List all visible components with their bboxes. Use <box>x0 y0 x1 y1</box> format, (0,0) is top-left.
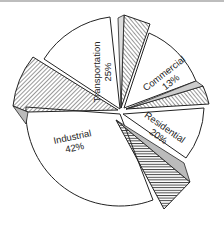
svg-text:Transportation: Transportation <box>91 42 102 103</box>
svg-text:25%: 25% <box>102 62 113 82</box>
pie-chart: Transportation 25% Commercial 13% Reside… <box>0 0 224 225</box>
